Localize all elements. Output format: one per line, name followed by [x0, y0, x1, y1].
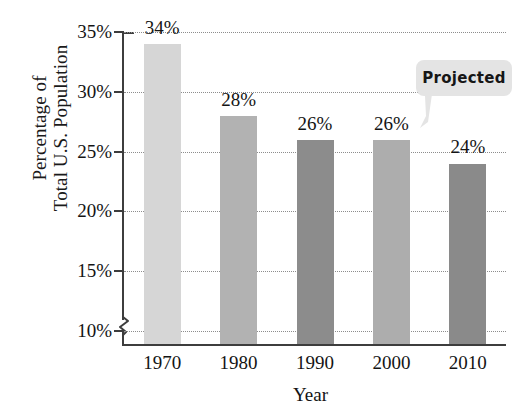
bar[interactable] — [449, 164, 486, 345]
y-axis-tick-label: 35% — [50, 21, 112, 43]
projected-callout: Projected — [416, 60, 512, 96]
y-axis-label-line-1: Percentage of — [29, 75, 50, 180]
y-axis-tick-label: 30% — [50, 81, 112, 103]
y-axis-tick-label: 20% — [50, 200, 112, 222]
bar-value-label: 26% — [374, 113, 409, 135]
x-axis-tick-label: 1980 — [220, 352, 258, 374]
x-axis-tick-label: 2000 — [372, 352, 410, 374]
y-axis-tick — [114, 270, 124, 272]
callout-label: Projected — [416, 60, 512, 96]
bar-value-label: 26% — [298, 113, 333, 135]
y-axis-label-line-2: Total U.S. Population — [50, 45, 71, 212]
y-axis-tick — [114, 91, 124, 93]
y-axis-tick — [114, 151, 124, 153]
bar[interactable] — [220, 116, 257, 344]
bar[interactable] — [144, 44, 181, 344]
bar-value-label: 24% — [450, 136, 485, 158]
y-axis-tick-label: 10% — [50, 320, 112, 342]
x-axis-tick-label: 1970 — [143, 352, 181, 374]
bar[interactable] — [297, 140, 334, 344]
callout-tail-icon — [406, 92, 436, 130]
bar-value-label: 28% — [221, 89, 256, 111]
bar-chart: Percentage of Total U.S. Population 10%1… — [0, 0, 525, 416]
y-axis-tick — [114, 31, 124, 33]
bar[interactable] — [373, 140, 410, 344]
y-axis-tick-label: 15% — [50, 260, 112, 282]
x-axis-tick-label: 1990 — [296, 352, 334, 374]
x-axis-label: Year — [0, 384, 525, 406]
x-axis-line — [122, 344, 506, 346]
y-axis-tick-label: 25% — [50, 141, 112, 163]
y-axis-tick — [114, 330, 124, 332]
x-axis-tick-label: 2010 — [449, 352, 487, 374]
y-axis-tick — [114, 210, 124, 212]
bar-value-label: 34% — [145, 17, 180, 39]
x-axis-label-text: Year — [293, 384, 328, 405]
